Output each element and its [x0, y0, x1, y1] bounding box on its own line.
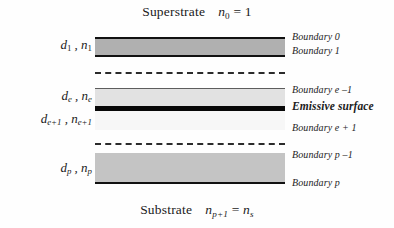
substrate-index-subscript: p+1	[212, 209, 228, 219]
superstrate-index-value: 1	[245, 4, 252, 19]
substrate-name: Substrate	[140, 202, 192, 217]
layer-band-1	[95, 37, 285, 57]
thin-film-stack-diagram: Superstraten0 = 1 d1 , n1 de , ne de+1 ,…	[0, 0, 394, 228]
layer-label-e: de , ne	[61, 88, 92, 104]
dashed-separator-upper	[95, 72, 285, 74]
superstrate-caption: Superstraten0 = 1	[0, 4, 394, 20]
layer-e-plus-1-index-subscript: e+1	[78, 117, 92, 127]
boundary-label-e-plus-1: Boundary e + 1	[292, 122, 357, 133]
layer-1-index-subscript: 1	[88, 43, 92, 53]
substrate-index-value-subscript: s	[250, 209, 254, 219]
emissive-surface-label: Emissive surface	[292, 100, 374, 112]
layer-e-thickness-subscript: e	[68, 94, 72, 104]
layer-band-e-plus-1	[95, 111, 285, 130]
layer-p-index-subscript: p	[88, 166, 92, 176]
layer-label-e-plus-1: de+1 , ne+1	[41, 111, 92, 127]
boundary-label-1: Boundary 1	[292, 45, 340, 56]
layer-p-thickness-subscript: p	[67, 166, 71, 176]
layer-label-p: dp , np	[60, 160, 92, 176]
layer-1-thickness-subscript: 1	[67, 43, 71, 53]
substrate-caption: Substratenp+1 = ns	[0, 202, 394, 218]
superstrate-name: Superstrate	[142, 4, 205, 19]
superstrate-index-subscript: 0	[225, 11, 230, 21]
dashed-separator-lower	[95, 143, 285, 145]
layer-band-p	[95, 153, 285, 184]
layer-e-plus-1-thickness-subscript: e+1	[47, 117, 61, 127]
boundary-label-0: Boundary 0	[292, 31, 340, 42]
substrate-relation: =	[232, 202, 240, 217]
boundary-label-p: Boundary p	[292, 177, 340, 188]
boundary-label-e-minus-1: Boundary e –1	[292, 84, 352, 95]
boundary-label-p-minus-1: Boundary p –1	[292, 149, 353, 160]
layer-e-index-subscript: e	[88, 94, 92, 104]
layer-band-e	[95, 88, 285, 106]
superstrate-relation: =	[233, 4, 241, 19]
layer-label-1: d1 , n1	[60, 37, 92, 53]
